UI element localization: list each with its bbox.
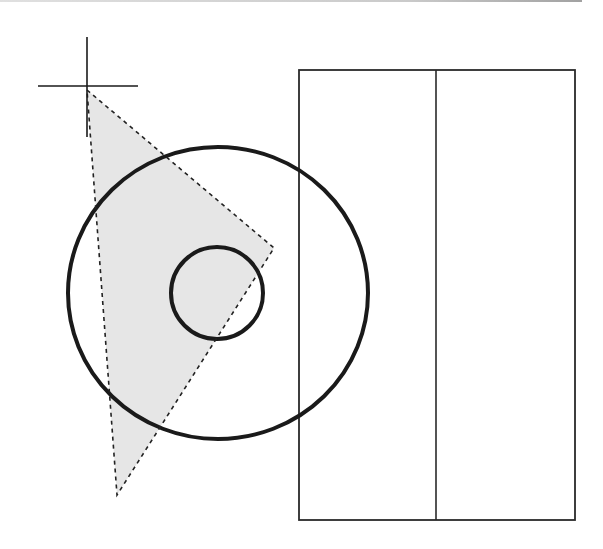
rectangle-outline	[299, 70, 575, 520]
two-column-rectangle	[299, 70, 575, 520]
diagram-canvas	[0, 0, 603, 549]
